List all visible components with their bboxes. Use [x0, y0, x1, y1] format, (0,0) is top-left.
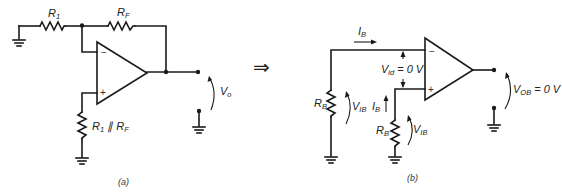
label-vo: Vo	[220, 85, 232, 99]
wire	[82, 93, 97, 112]
implies-arrow-icon: ⇒	[253, 55, 270, 79]
arrowhead-icon	[401, 82, 406, 88]
label-ib-right: IB	[372, 100, 380, 114]
label-rb-left: RB	[314, 97, 327, 111]
vo-arrow-icon	[209, 77, 214, 110]
inverting-sign: −	[429, 46, 435, 57]
arrowhead-icon	[384, 95, 389, 101]
label-vib-right: VIB	[413, 123, 427, 137]
wire	[395, 89, 425, 120]
junction-dot	[164, 70, 168, 74]
label-rf: RF	[117, 6, 130, 20]
label-r1-parallel-rf: R1 ∥ RF	[92, 120, 129, 134]
resistor-rf-icon	[108, 22, 135, 30]
panel-a: − + R1 RF	[13, 6, 232, 187]
ground-icon	[389, 147, 401, 163]
noninverting-sign: +	[428, 84, 434, 95]
vib-right-arrow-icon	[408, 117, 412, 145]
resistor-rb-left-icon	[327, 90, 335, 117]
output-terminal	[196, 70, 200, 74]
resistor-r1-icon	[40, 22, 65, 30]
ground-icon	[76, 139, 88, 164]
label-ib-top: IB	[358, 25, 366, 39]
caption-b: (b)	[407, 173, 418, 183]
label-vid: Vid= 0 V	[381, 63, 425, 77]
resistor-rcomp-icon	[78, 112, 86, 139]
output-terminal	[492, 68, 496, 72]
arrowhead-icon	[371, 40, 377, 45]
ground-icon	[193, 111, 205, 133]
inverting-sign: −	[101, 47, 107, 58]
arrowhead-icon	[401, 51, 406, 57]
circuit-diagram: − + R1 RF	[0, 0, 562, 192]
resistor-rb-right-icon	[391, 120, 399, 147]
caption-a: (a)	[118, 177, 129, 187]
panel-b: IB RB VIB − + Vid= 0 V	[314, 25, 562, 183]
ground-icon	[13, 26, 25, 46]
wire	[82, 26, 97, 52]
label-vob: VOB= 0 V	[513, 83, 562, 97]
ground-icon	[325, 117, 337, 163]
ground-icon	[488, 108, 500, 131]
vib-left-arrow-icon	[346, 93, 350, 124]
vob-arrow-icon	[505, 74, 511, 109]
label-vib-left: VIB	[352, 100, 366, 114]
noninverting-sign: +	[100, 87, 106, 98]
label-r1: R1	[48, 7, 60, 21]
wire	[135, 26, 166, 72]
label-rb-right: RB	[376, 124, 389, 138]
